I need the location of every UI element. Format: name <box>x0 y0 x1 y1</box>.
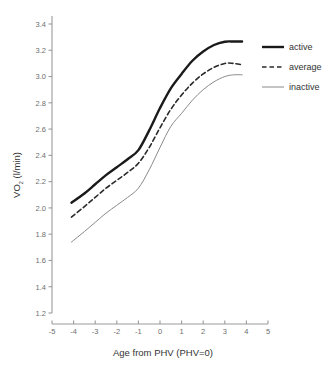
y-axis-tick-label: 1.6 <box>36 256 46 265</box>
x-axis-tick-label: 0 <box>158 327 162 336</box>
y-axis-title-main: VO <box>11 184 22 198</box>
y-axis-tick-label: 1.4 <box>36 283 46 292</box>
y-axis-tick-label: 2.0 <box>36 204 46 213</box>
x-axis-tick-label: -3 <box>92 327 99 336</box>
x-axis-tick-label: 2 <box>201 327 205 336</box>
x-axis-tick-label: 5 <box>266 327 270 336</box>
chart-figure: 1.21.41.61.82.02.22.42.62.83.03.23.4 -5-… <box>0 0 331 368</box>
y-axis-tick-label: 3.0 <box>36 72 46 81</box>
x-axis-tick-label: -2 <box>113 327 120 336</box>
legend-label-average: average <box>289 62 322 72</box>
y-axis-title: VO2 (l/min) <box>11 152 24 198</box>
y-axis-tick-label: 2.2 <box>36 177 46 186</box>
vo2-line-chart: 1.21.41.61.82.02.22.42.62.83.03.23.4 -5-… <box>0 0 331 368</box>
y-axis-tick-label: 3.2 <box>36 46 46 55</box>
y-axis-tick-label: 3.4 <box>36 20 46 29</box>
x-axis-tick-label: -5 <box>49 327 56 336</box>
x-axis-tick-label: -4 <box>70 327 77 336</box>
y-axis-title-units: (l/min) <box>11 152 22 181</box>
y-axis-tick-label: 1.8 <box>36 230 46 239</box>
legend-label-inactive: inactive <box>289 82 320 92</box>
legend-label-active: active <box>289 42 313 52</box>
x-axis-title: Age from PHV (PHV=0) <box>113 347 213 358</box>
y-axis-tick-label: 2.6 <box>36 125 46 134</box>
svg-text:VO2 (l/min): VO2 (l/min) <box>11 152 24 198</box>
x-axis-tick-label: -1 <box>135 327 142 336</box>
y-axis-tick-label: 2.8 <box>36 99 46 108</box>
x-axis-tick-label: 3 <box>223 327 227 336</box>
y-axis-tick-label: 2.4 <box>36 151 46 160</box>
x-axis-tick-label: 1 <box>180 327 184 336</box>
x-axis-tick-label: 4 <box>244 327 248 336</box>
y-axis-tick-label: 1.2 <box>36 309 46 318</box>
